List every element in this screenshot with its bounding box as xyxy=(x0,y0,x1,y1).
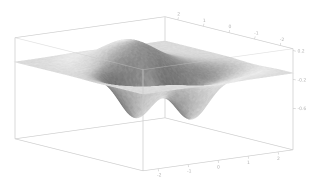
surface-plot-canvas xyxy=(0,0,317,185)
figure-3d-surface-plot xyxy=(0,0,317,185)
